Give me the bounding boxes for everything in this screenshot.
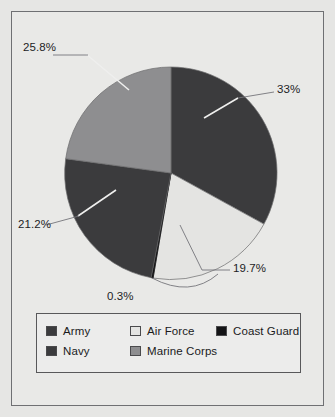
pie-plot-area: 25.8% 33% 21.2% 19.7% 0.3%	[12, 12, 325, 312]
legend-swatch-air-force	[130, 326, 141, 336]
legend-swatch-marine-corps	[130, 346, 141, 356]
pie-label-marine-corps: 25.8%	[23, 41, 56, 53]
pie-label-air-force: 19.7%	[233, 262, 266, 274]
legend-label-navy: Navy	[63, 345, 90, 357]
pie-label-coast-guard: 0.3%	[107, 290, 134, 302]
legend-swatch-navy	[46, 346, 57, 356]
legend-label-coast-guard: Coast Guard	[233, 325, 299, 337]
legend-label-army: Army	[63, 325, 90, 337]
leader-line-marine-corps	[86, 54, 129, 90]
legend-item-air-force[interactable]: Air Force	[130, 325, 216, 337]
legend-swatch-army	[46, 326, 57, 336]
legend-label-marine-corps: Marine Corps	[147, 345, 217, 357]
legend-swatch-coast-guard	[216, 326, 227, 336]
legend-item-navy[interactable]: Navy	[46, 345, 130, 357]
legend: Army Air Force Coast Guard Navy Marine C…	[36, 313, 301, 373]
legend-label-air-force: Air Force	[147, 325, 195, 337]
legend-item-marine-corps[interactable]: Marine Corps	[130, 345, 216, 357]
chart-figure: 25.8% 33% 21.2% 19.7% 0.3% Army Air Forc…	[0, 0, 335, 417]
pie-label-army: 33%	[277, 83, 300, 95]
legend-item-army[interactable]: Army	[46, 325, 130, 337]
pie-slice-marine-corps[interactable]	[66, 67, 171, 173]
pie-label-navy: 21.2%	[18, 218, 51, 230]
chart-frame: 25.8% 33% 21.2% 19.7% 0.3% Army Air Forc…	[11, 11, 324, 406]
legend-item-coast-guard[interactable]: Coast Guard	[216, 325, 299, 337]
pie-chart-svg	[12, 12, 325, 312]
